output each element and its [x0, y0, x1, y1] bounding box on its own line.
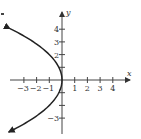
y-axis-label: y: [65, 8, 71, 17]
x-tick-label: 4: [110, 84, 115, 93]
x-axis-label: x: [127, 69, 132, 78]
y-tick-label: 3: [54, 38, 59, 47]
parabola-graph: −3−2−11234 432−3 x y: [0, 0, 141, 139]
corner-mark: [1, 13, 4, 15]
x-tick-label: 1: [72, 84, 77, 93]
x-ticks: −3−2−11234: [17, 77, 115, 93]
y-tick-label: −3: [47, 114, 59, 123]
x-tick-label: −2: [30, 84, 42, 93]
x-tick-label: −1: [42, 84, 54, 93]
y-tick-label: 4: [54, 25, 59, 34]
x-tick-label: −3: [17, 84, 29, 93]
x-tick-label: 3: [98, 84, 103, 93]
x-tick-label: 2: [85, 84, 90, 93]
y-tick-label: 2: [54, 51, 59, 60]
